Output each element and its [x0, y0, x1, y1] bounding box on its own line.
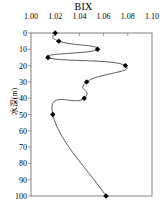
data-markers [45, 30, 128, 198]
data-line [47, 33, 127, 196]
data-point-marker [53, 30, 58, 35]
plot-area [0, 0, 167, 216]
data-point-marker [56, 38, 61, 43]
chart-figure: BIX 1.001.021.041.061.081.10 01020304050… [0, 0, 167, 216]
data-point-marker [103, 193, 108, 198]
data-point-marker [50, 112, 55, 117]
